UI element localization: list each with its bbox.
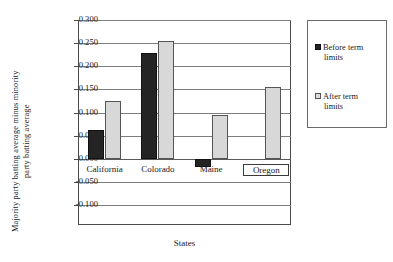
bar xyxy=(88,130,104,159)
x-axis-title: States xyxy=(78,238,291,248)
x-axis-category-label: Maine xyxy=(171,164,251,174)
y-axis-title-line-1: Majority party batting average minus min… xyxy=(11,70,20,232)
legend-label-after: After termlimits xyxy=(315,92,387,112)
legend-label-after-line1: After term xyxy=(323,92,358,101)
x-axis-category-label: Oregon xyxy=(243,164,289,176)
legend: Before termlimits After termlimits xyxy=(307,20,387,128)
legend-swatch-after-icon xyxy=(315,93,321,99)
y-axis-title: Majority party batting average minus min… xyxy=(0,0,34,240)
legend-item-after: After termlimits xyxy=(315,92,387,112)
chart-figure: Majority party batting average minus min… xyxy=(0,0,393,262)
bar xyxy=(158,41,174,158)
y-axis-title-line-2: party batting average xyxy=(22,104,31,178)
legend-label-before-line1: Before term xyxy=(323,43,363,52)
legend-label-after-line2: limits xyxy=(324,102,387,112)
legend-label-before: Before termlimits xyxy=(315,43,387,63)
bar xyxy=(105,101,121,158)
legend-swatch-before-icon xyxy=(315,44,321,50)
bar-series-layer xyxy=(78,20,291,225)
bar xyxy=(141,53,157,158)
bar xyxy=(212,115,228,159)
legend-item-before: Before termlimits xyxy=(315,43,387,63)
bar xyxy=(265,87,281,159)
legend-label-before-line2: limits xyxy=(324,53,387,63)
